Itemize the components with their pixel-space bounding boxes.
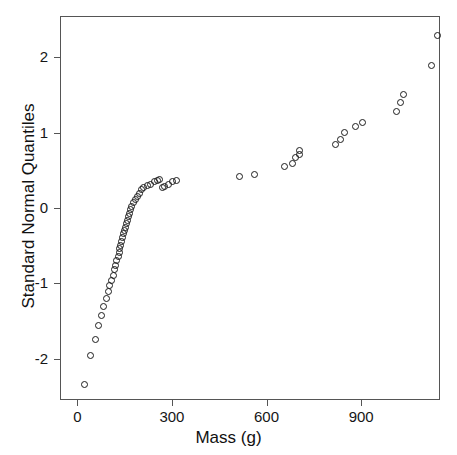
scatter-plot-area (61, 17, 439, 399)
x-axis-label: Mass (g) (0, 428, 457, 448)
x-tick-label: 300 (142, 408, 202, 425)
data-point (359, 119, 366, 126)
y-tick-mark (54, 133, 60, 134)
data-point (103, 295, 110, 302)
data-point (289, 160, 296, 167)
data-point (337, 136, 344, 143)
y-tick-mark (54, 208, 60, 209)
data-point (105, 288, 112, 295)
data-point (173, 177, 180, 184)
data-point (434, 32, 441, 39)
x-tick-mark (77, 400, 78, 406)
data-point (341, 129, 348, 136)
data-point (296, 147, 303, 154)
data-point (400, 91, 407, 98)
data-point (393, 108, 400, 115)
y-tick-mark (54, 359, 60, 360)
data-point (428, 62, 435, 69)
y-tick-mark (54, 283, 60, 284)
data-point (281, 163, 288, 170)
x-tick-mark (267, 400, 268, 406)
scanned-header-artifact: ........................................ (118, 0, 450, 6)
y-tick-label: -2 (0, 350, 48, 367)
qq-plot-figure: ........................................… (0, 0, 457, 455)
data-point (98, 312, 105, 319)
x-tick-mark (172, 400, 173, 406)
plot-frame (60, 16, 440, 400)
data-point (236, 173, 243, 180)
data-point (397, 99, 404, 106)
x-tick-label: 900 (331, 408, 391, 425)
data-point (156, 176, 163, 183)
data-point (95, 322, 102, 329)
x-tick-mark (361, 400, 362, 406)
data-point (100, 303, 107, 310)
x-tick-label: 600 (237, 408, 297, 425)
data-point (92, 336, 99, 343)
x-tick-label: 0 (47, 408, 107, 425)
data-point (81, 381, 88, 388)
y-tick-mark (54, 57, 60, 58)
y-tick-label: 2 (0, 48, 48, 65)
data-point (87, 352, 94, 359)
data-point (251, 171, 258, 178)
y-axis-label: Standard Normal Quantiles (19, 86, 39, 326)
